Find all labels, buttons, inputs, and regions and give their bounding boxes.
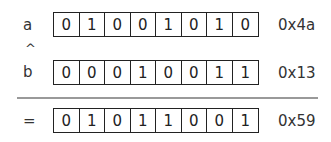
bit-cell: 0 bbox=[182, 109, 208, 132]
bit-cell: 0 bbox=[182, 13, 208, 36]
bit-cell: 1 bbox=[131, 109, 157, 132]
bit-cell: 1 bbox=[207, 13, 233, 36]
bit-cell: 1 bbox=[156, 109, 182, 132]
operand-a-label: a bbox=[23, 16, 32, 34]
operand-a-bits: 0 1 0 0 1 0 1 0 bbox=[53, 12, 259, 37]
bit-cell: 0 bbox=[156, 61, 182, 84]
operand-b-label: b bbox=[23, 63, 33, 81]
bit-cell: 0 bbox=[54, 13, 80, 36]
bit-cell: 1 bbox=[80, 109, 106, 132]
operand-b-bits: 0 0 0 1 0 0 1 1 bbox=[53, 60, 259, 85]
bit-cell: 1 bbox=[233, 61, 259, 84]
divider-line bbox=[17, 97, 318, 99]
bit-cell: 0 bbox=[105, 13, 131, 36]
bit-cell: 0 bbox=[233, 13, 259, 36]
result-equals-label: = bbox=[23, 112, 36, 130]
result-bits: 0 1 0 1 1 0 0 1 bbox=[53, 108, 259, 133]
bit-cell: 1 bbox=[233, 109, 259, 132]
bit-cell: 0 bbox=[207, 109, 233, 132]
bit-cell: 0 bbox=[54, 109, 80, 132]
bit-cell: 0 bbox=[105, 61, 131, 84]
bit-cell: 0 bbox=[131, 13, 157, 36]
bit-cell: 0 bbox=[182, 61, 208, 84]
bit-cell: 1 bbox=[131, 61, 157, 84]
bit-cell: 1 bbox=[80, 13, 106, 36]
bit-cell: 1 bbox=[207, 61, 233, 84]
operand-b-hex: 0x13 bbox=[278, 64, 316, 82]
bit-cell: 0 bbox=[54, 61, 80, 84]
result-hex: 0x59 bbox=[278, 112, 316, 130]
xor-operator: ^ bbox=[25, 40, 36, 58]
bit-cell: 0 bbox=[80, 61, 106, 84]
bit-cell: 0 bbox=[105, 109, 131, 132]
operand-a-hex: 0x4a bbox=[278, 16, 315, 34]
bit-cell: 1 bbox=[156, 13, 182, 36]
